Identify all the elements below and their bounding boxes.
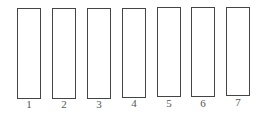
label-3: 3 (86, 99, 112, 110)
label-6: 6 (190, 98, 216, 109)
label-1: 1 (16, 99, 42, 110)
label-4: 4 (121, 98, 147, 109)
rectangle-3 (87, 8, 111, 99)
rectangle-7 (226, 7, 250, 96)
label-2: 2 (51, 99, 77, 110)
rectangle-4 (122, 8, 146, 98)
label-7: 7 (225, 97, 251, 108)
rectangle-6 (191, 7, 215, 97)
rectangle-5 (157, 7, 181, 97)
rectangle-2 (52, 8, 76, 99)
rectangle-1 (17, 8, 41, 99)
label-5: 5 (156, 98, 182, 109)
